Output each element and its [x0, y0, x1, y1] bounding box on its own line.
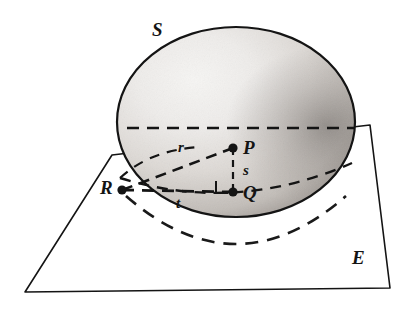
label-segment-s: s	[243, 163, 249, 178]
point-q-dot	[228, 187, 237, 196]
geometry-diagram	[0, 0, 412, 315]
label-plane-e: E	[352, 248, 365, 267]
label-segment-t: t	[176, 196, 180, 211]
sphere-body	[117, 27, 355, 217]
point-p-dot	[228, 143, 237, 152]
figure-container: S E P Q R r s t	[0, 0, 412, 315]
label-point-r: R	[100, 178, 113, 197]
label-sphere-s: S	[152, 20, 163, 39]
point-r-dot	[117, 185, 126, 194]
label-point-q: Q	[243, 183, 257, 202]
label-point-p: P	[243, 138, 255, 157]
label-segment-r: r	[178, 140, 184, 155]
